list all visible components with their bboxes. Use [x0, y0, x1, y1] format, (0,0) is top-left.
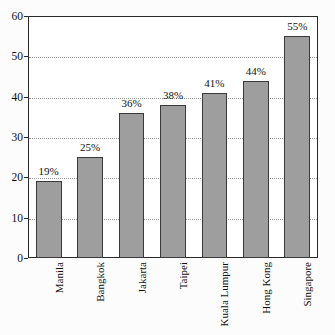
x-axis-tick-label: Singapore	[301, 262, 313, 307]
bar-value-label: 19%	[39, 166, 59, 177]
bar-value-label: 55%	[287, 21, 307, 32]
bar[interactable]	[36, 181, 62, 258]
y-axis: 0102030405060	[0, 16, 28, 258]
bar-chart: 0102030405060 19%25%36%38%41%44%55% Mani…	[0, 0, 335, 335]
y-axis-tick-label: 50	[12, 50, 24, 62]
x-axis-tick-label: Kuala Lumpur	[218, 262, 230, 326]
x-axis-tick-label: Taipei	[177, 262, 189, 289]
bar-slot: 44%	[235, 16, 276, 258]
x-axis-tick-slot: Kuala Lumpur	[194, 259, 235, 335]
y-axis-tick-label: 40	[12, 91, 24, 103]
y-axis-tick-label: 0	[17, 252, 23, 264]
x-axis-tick-label: Bangkok	[94, 262, 106, 302]
bar[interactable]	[77, 157, 103, 258]
bar-value-label: 25%	[80, 142, 100, 153]
x-axis-tick-slot: Bangkok	[69, 259, 110, 335]
bar[interactable]	[284, 36, 310, 258]
y-axis-tick-label: 10	[12, 212, 24, 224]
x-axis-tick-label: Manila	[53, 262, 65, 293]
bar-slot: 19%	[28, 16, 69, 258]
x-axis-tick-slot: Manila	[28, 259, 69, 335]
bars-container: 19%25%36%38%41%44%55%	[28, 16, 318, 258]
x-axis: ManilaBangkokJakartaTaipeiKuala LumpurHo…	[28, 259, 318, 335]
y-axis-tick-label: 60	[12, 10, 24, 22]
bar[interactable]	[243, 81, 269, 258]
bar-slot: 55%	[277, 16, 318, 258]
bar-value-label: 36%	[121, 98, 141, 109]
bar-slot: 36%	[111, 16, 152, 258]
bar-value-label: 44%	[246, 66, 266, 77]
x-axis-tick-label: Jakarta	[136, 262, 148, 293]
bar-slot: 25%	[69, 16, 110, 258]
x-axis-tick-slot: Hong Kong	[235, 259, 276, 335]
bar-slot: 38%	[152, 16, 193, 258]
bar[interactable]	[202, 93, 228, 258]
y-axis-tick-label: 30	[12, 131, 24, 143]
x-axis-tick-label: Hong Kong	[260, 262, 272, 314]
bar[interactable]	[119, 113, 145, 258]
y-axis-tick-label: 20	[12, 171, 24, 183]
bar-slot: 41%	[194, 16, 235, 258]
bar[interactable]	[160, 105, 186, 258]
bar-value-label: 41%	[204, 78, 224, 89]
x-axis-tick-slot: Jakarta	[111, 259, 152, 335]
x-axis-tick-slot: Taipei	[152, 259, 193, 335]
bar-value-label: 38%	[163, 90, 183, 101]
x-axis-tick-slot: Singapore	[277, 259, 318, 335]
